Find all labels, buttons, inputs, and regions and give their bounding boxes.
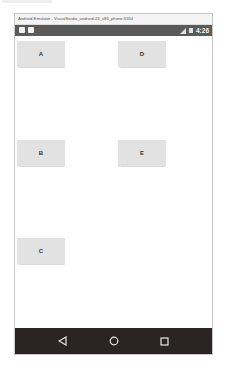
home-icon <box>109 336 119 346</box>
button-label: A <box>39 51 43 57</box>
button-d[interactable]: D <box>118 41 166 67</box>
back-icon <box>58 336 67 346</box>
button-e[interactable]: E <box>118 140 166 166</box>
home-button[interactable] <box>106 333 122 349</box>
button-label: B <box>39 150 43 156</box>
button-b[interactable]: B <box>17 140 65 166</box>
app-content: A D B E C <box>15 36 212 328</box>
notification-icon <box>19 27 25 33</box>
notification-icon <box>28 27 34 33</box>
signal-icon <box>180 28 186 34</box>
window-titlebar[interactable]: Android Emulator - VisualStudio_android-… <box>15 14 212 25</box>
recents-button[interactable] <box>157 333 173 349</box>
button-label: D <box>140 51 144 57</box>
button-a[interactable]: A <box>17 41 65 67</box>
emulator-window: Android Emulator - VisualStudio_android-… <box>14 13 213 355</box>
android-nav-bar <box>15 328 212 354</box>
back-button[interactable] <box>55 333 71 349</box>
button-c[interactable]: C <box>17 238 65 264</box>
status-clock: 4:26 <box>196 27 209 34</box>
button-label: E <box>140 150 144 156</box>
window-title: Android Emulator - VisualStudio_android-… <box>18 16 133 21</box>
android-status-bar: 4:26 <box>15 25 212 36</box>
battery-icon <box>189 28 193 33</box>
host-caption <box>2 0 52 3</box>
recents-icon <box>160 337 169 346</box>
button-label: C <box>39 248 43 254</box>
